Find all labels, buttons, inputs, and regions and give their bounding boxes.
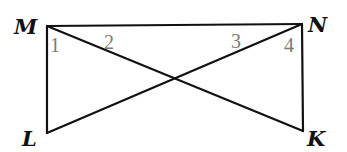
angle-label-4: 4 [284, 34, 294, 56]
vertex-label-m: M [13, 14, 38, 39]
angle-label-2: 2 [104, 31, 114, 53]
vertex-label-l: L [21, 126, 37, 151]
segment-nk [302, 24, 303, 131]
segment-mn [47, 24, 302, 26]
angle-label-1: 1 [50, 34, 60, 56]
segment-nl [47, 24, 302, 133]
geometry-diagram: M N L K 1 2 3 4 [0, 0, 347, 152]
vertex-label-k: K [306, 126, 326, 151]
vertex-label-n: N [307, 12, 328, 37]
angle-label-3: 3 [231, 30, 241, 52]
